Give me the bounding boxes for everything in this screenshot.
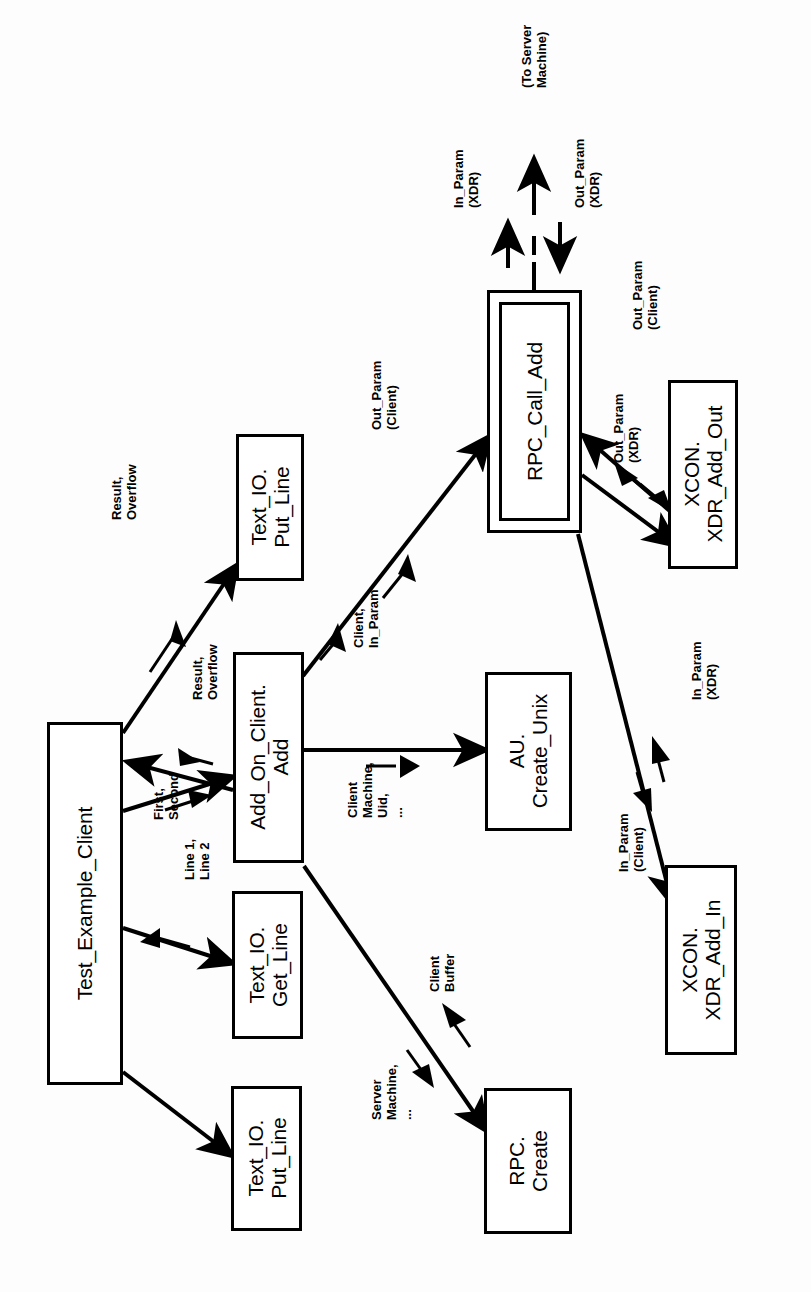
edge-client-to-getline [123, 928, 232, 963]
node-label: Text_IO. Get_Line [244, 923, 290, 1007]
edge-rpccall-to-xdrout [582, 475, 676, 545]
edge-label-in-param-client: In_Param (Client) [617, 813, 647, 872]
edge-label-client-buffer: Client Buffer [428, 954, 458, 992]
edge-label-in-param-xdr-bottom: In_Param (XDR) [690, 641, 720, 700]
edge-label-client-in-param: Client, In_Param [352, 589, 382, 648]
node-inner-frame: RPC_Call_Add [499, 302, 570, 521]
edge-label-out-param-client-rpccall: Out_Param (Client) [370, 361, 400, 430]
node-label: AU. Create_Unix [505, 694, 551, 809]
edge-label-result-overflow-putline: Result, Overflow [110, 464, 140, 520]
node-text-io-put-line-bottom[interactable]: Text_IO. Put_Line [231, 1086, 302, 1231]
edge-label-line1-line2: Line 1, Line 2 [183, 839, 213, 880]
edge-label-to-server-machine: (To Server Machine) [520, 25, 550, 88]
edge-label-result-overflow-add: Result, Overflow [191, 644, 221, 700]
edge-label-server-machine: Server Machine, ... [370, 1064, 415, 1120]
edge-label-client-machine-uid: Client Machine, Uid, ... [346, 762, 406, 818]
node-label: Text_IO. Put_Line [243, 1118, 289, 1199]
edge-rpccreate-to-add [442, 1003, 470, 1047]
node-xcon-xdr-add-in[interactable]: XCON. XDR_Add_In [665, 865, 737, 1055]
node-text-io-get-line[interactable]: Text_IO. Get_Line [232, 891, 303, 1039]
node-label: RPC_Call_Add [523, 342, 546, 481]
node-add-on-client-add[interactable]: Add_On_Client. Add [233, 652, 304, 863]
node-test-example-client[interactable]: Test_Example_Client [47, 722, 123, 1085]
node-label: Text_IO. Put_Line [247, 467, 293, 548]
edge-label-first-second: First, Second [152, 773, 182, 820]
node-label: Add_On_Client. Add [245, 685, 291, 830]
node-text-io-put-line-top[interactable]: Text_IO. Put_Line [236, 434, 304, 581]
node-rpc-call-add[interactable]: RPC_Call_Add [487, 290, 582, 533]
edge-client-to-putline-bottom [123, 1072, 231, 1155]
node-label: Test_Example_Client [73, 807, 96, 1000]
diagram-canvas: Test_Example_Client Text_IO. Put_Line Ad… [0, 0, 811, 1292]
node-label: XCON. XDR_Add_Out [680, 406, 726, 543]
edge-label-in-param-xdr-top: In_Param (XDR) [452, 149, 482, 208]
node-rpc-create[interactable]: RPC. Create [484, 1088, 572, 1234]
node-xcon-xdr-add-out[interactable]: XCON. XDR_Add_Out [668, 380, 738, 569]
edge-label-out-param-xdr-bottom: Out_Param (XDR) [612, 394, 642, 463]
node-au-create-unix[interactable]: AU. Create_Unix [485, 672, 572, 831]
edge-label-out-param-xdr-top: Out_Param (XDR) [573, 139, 603, 208]
edge-rpccall-to-server [508, 160, 560, 290]
node-label: XCON. XDR_Add_In [678, 900, 724, 1021]
node-label: RPC. Create [505, 1130, 551, 1192]
edge-xdrin-to-rpccall [652, 736, 670, 782]
edge-label-out-param-client-xdradd: Out_Param (Client) [631, 261, 661, 330]
